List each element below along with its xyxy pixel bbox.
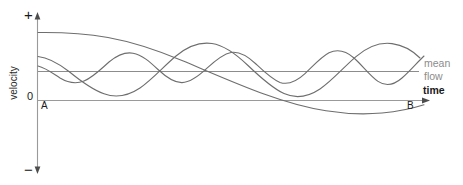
x-axis-title: time [423, 85, 445, 96]
medium-oscillation-curve [38, 43, 420, 96]
mean-flow-legend-line-2: flow [424, 71, 443, 82]
axes-group [35, 12, 430, 174]
y-axis-title: velocity [9, 56, 19, 110]
velocity-time-plot [0, 0, 463, 185]
medium-oscillation-series [38, 43, 420, 96]
y-axis-positive-label: + [24, 7, 33, 22]
mean-flow-legend-line-1: mean [424, 58, 450, 69]
x-axis-arrow-right-icon [422, 98, 430, 104]
fast-oscillation-series [38, 51, 424, 85]
origin-zero-label: 0 [27, 91, 33, 102]
y-axis-arrow-down-icon [35, 167, 41, 175]
point-a-label: A [41, 101, 48, 111]
y-axis-negative-label: − [24, 162, 33, 177]
point-b-label: B [407, 101, 414, 111]
diagram-canvas: + − 0 A B velocity time mean flow [0, 0, 463, 185]
fast-oscillation-curve [38, 51, 424, 85]
y-axis-arrow-up-icon [35, 12, 41, 20]
